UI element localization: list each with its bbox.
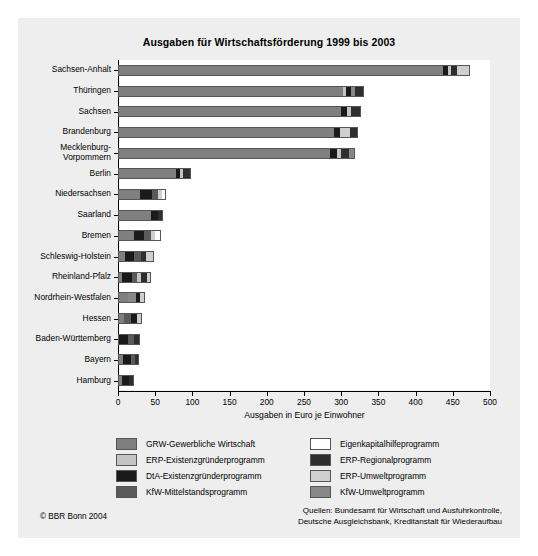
legend-item[interactable]: GRW-Gewerbliche Wirtschaft <box>116 436 265 451</box>
bar-segment-erp_umwelt[interactable] <box>340 127 350 138</box>
y-axis-label: Sachsen-Anhalt <box>52 65 111 75</box>
x-axis-tick <box>230 392 231 396</box>
x-axis-tick-label: 500 <box>483 397 497 407</box>
bar-segment-grw[interactable] <box>118 106 341 117</box>
bar-segment-kfw_umwelt[interactable] <box>349 148 354 159</box>
bar-segment-dta[interactable] <box>118 334 128 345</box>
chart-title: Ausgaben für Wirtschaftsförderung 1999 b… <box>18 36 520 48</box>
y-axis-label: Baden-Württemberg <box>36 334 111 344</box>
legend-item[interactable]: DtA-Existenzgründerprogramm <box>116 468 265 483</box>
y-axis-label: Sachsen <box>78 107 111 117</box>
y-axis-label-line: Baden-Württemberg <box>36 334 111 344</box>
y-axis-label: Berlin <box>90 169 111 179</box>
y-axis-label-line: Berlin <box>90 169 111 179</box>
bar-segment-kfw_mittel[interactable] <box>128 334 135 345</box>
y-axis-label-line: Brandenburg <box>63 127 111 137</box>
bar-segment-grw[interactable] <box>118 251 125 262</box>
bar-segment-erp_umwelt[interactable] <box>140 292 144 303</box>
x-axis-tick-label: 250 <box>297 397 311 407</box>
x-axis-tick-label: 50 <box>151 397 160 407</box>
legend-item[interactable]: KfW-Umweltprogramm <box>310 484 439 499</box>
bar-segment-erp_reg[interactable] <box>355 86 364 97</box>
bar-segment-grw[interactable] <box>118 230 134 241</box>
bar-segment-ekh[interactable] <box>162 189 166 200</box>
y-axis-label: Bayern <box>84 355 111 365</box>
legend-item[interactable]: Eigenkapitalhilfeprogramm <box>310 436 439 451</box>
bar-segment-kfw_mittel[interactable] <box>144 230 151 241</box>
x-axis-tick <box>118 392 119 396</box>
bar-segment-kfw_umwelt[interactable] <box>128 292 135 303</box>
sources-line-2: Deutsche Ausgleichsbank, Kreditanstalt f… <box>298 516 502 527</box>
bar-segment-erp_reg[interactable] <box>134 334 140 345</box>
y-axis-label: Saarland <box>77 210 111 220</box>
legend-swatch-ekh <box>310 438 331 450</box>
x-axis-tick-label: 350 <box>371 397 385 407</box>
legend-label: GRW-Gewerbliche Wirtschaft <box>146 439 255 449</box>
x-axis-tick-label: 200 <box>260 397 274 407</box>
y-axis-label: Rheinland-Pfalz <box>52 272 111 282</box>
bar-segment-erp_umwelt[interactable] <box>147 272 151 283</box>
bar-segment-dta[interactable] <box>123 354 130 365</box>
bar-segment-erp_reg[interactable] <box>183 168 190 179</box>
legend-item[interactable]: ERP-Umweltprogramm <box>310 468 439 483</box>
figure-panel: Ausgaben für Wirtschaftsförderung 1999 b… <box>18 18 520 538</box>
bar-segment-erp_reg[interactable] <box>129 375 134 386</box>
bar-segment-erp_reg[interactable] <box>351 106 361 117</box>
y-axis-label: Thüringen <box>73 86 111 96</box>
x-axis-ticks: 050100150200250300350400450500 <box>118 392 490 410</box>
bar-segment-erp_umwelt[interactable] <box>457 65 470 76</box>
x-axis-tick-label: 0 <box>116 397 121 407</box>
y-axis-label: Nordrhein-Westfalen <box>34 293 111 303</box>
bar-segment-grw[interactable] <box>118 168 176 179</box>
bar-segment-dta[interactable] <box>140 189 152 200</box>
bar-segment-dta[interactable] <box>122 375 129 386</box>
legend-label: ERP-Regionalprogramm <box>340 455 431 465</box>
bar-segment-erp_umwelt[interactable] <box>137 313 141 324</box>
bar-segment-grw[interactable] <box>118 189 140 200</box>
y-axis-label-line: Saarland <box>77 210 111 220</box>
bar-segment-grw[interactable] <box>118 292 128 303</box>
bar-segment-kfw_mittel[interactable] <box>124 313 131 324</box>
bar-segment-erp_reg[interactable] <box>158 210 162 221</box>
y-axis-label: Niedersachsen <box>55 189 111 199</box>
y-axis-label-line: Sachsen <box>78 107 111 117</box>
x-axis-tick <box>192 392 193 396</box>
y-axis-label-line: Nordrhein-Westfalen <box>34 293 111 303</box>
bar-segment-erp_reg[interactable] <box>350 127 357 138</box>
x-axis-tick <box>341 392 342 396</box>
legend-column-right: EigenkapitalhilfeprogrammERP-Regionalpro… <box>310 436 439 500</box>
x-axis-tick <box>155 392 156 396</box>
legend-swatch-dta <box>116 470 137 482</box>
y-axis-label-line: Hessen <box>83 314 111 324</box>
bar-segment-grw[interactable] <box>118 65 443 76</box>
legend-label: KfW-Umweltprogramm <box>340 487 425 497</box>
bar-segment-erp_reg[interactable] <box>451 65 458 76</box>
x-axis-tick <box>304 392 305 396</box>
bar-segment-dta[interactable] <box>125 251 134 262</box>
y-axis-label: Bremen <box>82 231 111 241</box>
x-axis-tick-label: 450 <box>446 397 460 407</box>
bar-segment-erp_reg[interactable] <box>341 148 349 159</box>
bar-segment-dta[interactable] <box>134 230 144 241</box>
bar-segment-kfw_mittel[interactable] <box>134 251 141 262</box>
bar-segment-grw[interactable] <box>118 127 334 138</box>
bar-segment-dta[interactable] <box>151 210 158 221</box>
bar-segment-dta[interactable] <box>122 272 132 283</box>
bar-segment-erp_reg[interactable] <box>135 354 139 365</box>
bar-segment-ekh[interactable] <box>155 230 161 241</box>
legend-item[interactable]: ERP-Regionalprogramm <box>310 452 439 467</box>
legend-item[interactable]: KfW-Mittelstandsprogramm <box>116 484 265 499</box>
legend-item[interactable]: ERP-Existenzgründerprogramm <box>116 452 265 467</box>
bar-segment-grw[interactable] <box>118 86 343 97</box>
legend-label: ERP-Existenzgründerprogramm <box>146 455 265 465</box>
bar-segment-erp_umwelt[interactable] <box>146 251 154 262</box>
legend: GRW-Gewerbliche WirtschaftERP-Existenzgr… <box>18 436 520 498</box>
bar-segment-grw[interactable] <box>118 210 151 221</box>
x-axis-tick-label: 400 <box>409 397 423 407</box>
bar-segment-grw[interactable] <box>118 148 330 159</box>
legend-swatch-erp_umwelt <box>310 470 331 482</box>
y-axis-label: Brandenburg <box>63 127 111 137</box>
legend-swatch-erp_exist <box>116 454 137 466</box>
copyright-notice: © BBR Bonn 2004 <box>40 512 107 521</box>
bar-segment-dta[interactable] <box>330 148 337 159</box>
